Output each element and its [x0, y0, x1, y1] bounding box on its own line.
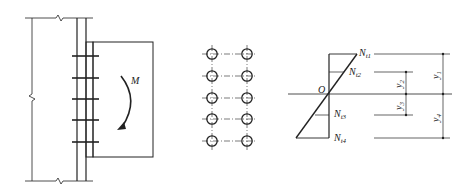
distance-label-y3: y3: [393, 102, 406, 111]
moment-label: M: [130, 75, 140, 86]
top-break-line: [25, 15, 93, 21]
moment-arrow-icon: [117, 76, 131, 130]
bolt-layout-panel: [202, 45, 257, 150]
distance-label-y4: y4: [430, 114, 443, 123]
distance-label-y2: y2: [393, 80, 406, 89]
column-extent-line: [29, 18, 35, 181]
neutral-axis-label: O: [318, 84, 325, 95]
connection-elevation-panel: [25, 15, 153, 184]
tension-distribution-panel: [288, 53, 452, 139]
force-label-nt4: Nt4: [333, 132, 347, 145]
force-label-nt1: Nt1: [358, 47, 371, 60]
distance-label-y1: y1: [430, 71, 443, 80]
figure: M: [0, 0, 472, 194]
force-label-nt3: Nt3: [333, 108, 347, 121]
distribution-line: [296, 54, 357, 138]
beam: [93, 42, 153, 157]
force-label-nt2: Nt2: [348, 66, 362, 79]
bottom-break-line: [25, 178, 93, 184]
